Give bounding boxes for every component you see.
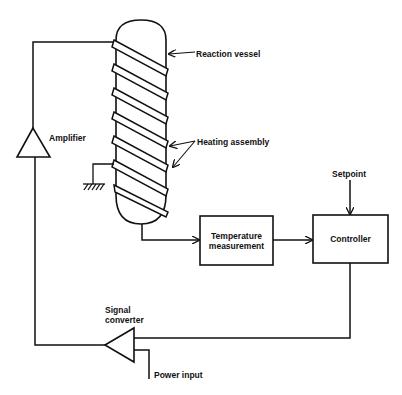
temperature-measurement-line2: measurement — [209, 241, 264, 251]
temperature-measurement-line1: Temperature — [211, 231, 262, 241]
signal-converter-symbol — [105, 328, 134, 362]
signal-converter-label-line2: converter — [105, 315, 144, 325]
diagram-canvas — [0, 0, 402, 395]
vessel-to-temperature-arrow — [142, 224, 199, 240]
setpoint-label: Setpoint — [332, 169, 366, 179]
signal-converter-label-line1: Signal — [105, 305, 131, 315]
amplifier-symbol — [17, 128, 50, 157]
reaction-vessel-pointer — [169, 52, 195, 54]
power-input-wire — [134, 350, 149, 379]
power-input-label: Power input — [154, 370, 203, 380]
ground-symbol — [83, 164, 114, 190]
controller-to-converter-wire — [134, 263, 350, 338]
reaction-vessel-label: Reaction vessel — [196, 49, 260, 59]
temperature-measurement-label: Temperature measurement — [200, 216, 273, 265]
amplifier-to-coil-wire — [33, 42, 114, 128]
heating-assembly-label: Heating assembly — [197, 137, 269, 147]
amplifier-label: Amplifier — [49, 133, 86, 143]
controller-label: Controller — [313, 215, 388, 263]
